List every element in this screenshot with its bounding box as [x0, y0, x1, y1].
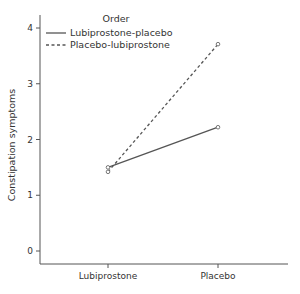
data-point: [106, 166, 110, 170]
chart: 01234LubiprostonePlacebo Order Lubiprost…: [0, 0, 300, 294]
x-tick-label: Lubiprostone: [79, 271, 138, 281]
series-line-0: [108, 127, 218, 167]
data-point: [216, 125, 220, 129]
x-tick-label: Placebo: [200, 271, 236, 281]
y-tick-label: 3: [27, 79, 33, 89]
y-tick-label: 0: [27, 246, 33, 256]
axes: 01234LubiprostonePlacebo: [27, 15, 288, 281]
data-point: [106, 170, 110, 174]
legend-title: Order: [103, 13, 130, 24]
legend-label-0: Lubiprostone-placebo: [70, 27, 173, 38]
y-tick-label: 2: [27, 135, 33, 145]
y-tick-label: 4: [27, 23, 33, 33]
legend-label-1: Placebo-lubiprostone: [70, 39, 170, 50]
series-group: [106, 42, 220, 173]
data-point: [216, 42, 220, 46]
y-axis-label: Constipation symptoms: [6, 89, 17, 201]
series-line-1: [108, 44, 218, 172]
legend: Order Lubiprostone-placebo Placebo-lubip…: [46, 13, 173, 50]
y-tick-label: 1: [27, 190, 33, 200]
